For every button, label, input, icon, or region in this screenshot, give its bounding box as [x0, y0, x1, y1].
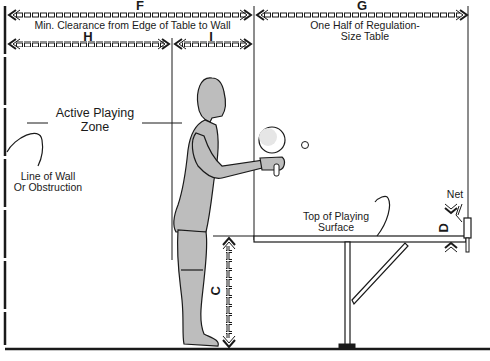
ball [302, 142, 309, 149]
wall-leader-curve [7, 133, 43, 166]
dimension-f-label: F [125, 0, 155, 13]
active-zone-label-line2: Zone [45, 121, 145, 134]
dimension-g-caption-line2: Size Table [280, 31, 450, 42]
table [254, 236, 466, 349]
net-leader [458, 204, 462, 215]
active-zone-label-line1: Active Playing [45, 107, 145, 120]
dimension-c-label: C [209, 283, 223, 299]
net-label: Net [440, 189, 470, 200]
surface-label-line2: Surface [296, 222, 376, 233]
wall-label-line2: Or Obstruction [8, 182, 88, 193]
dimension-g-label: G [347, 0, 377, 13]
dimension-h-label: H [73, 30, 103, 44]
surface-leader-curve [375, 196, 390, 236]
dimension-d-label: D [437, 220, 451, 236]
dimension-i-label: I [196, 30, 226, 44]
